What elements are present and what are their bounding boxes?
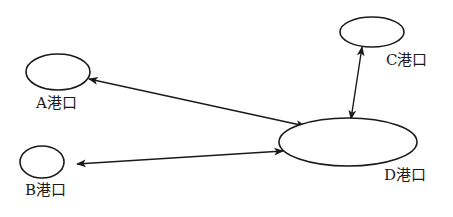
port-a-node bbox=[26, 54, 90, 90]
port-b-label: B港口 bbox=[25, 183, 66, 198]
edge-c-d-bidirectional-arrow bbox=[351, 47, 362, 119]
port-a-label: A港口 bbox=[36, 96, 77, 111]
port-d-node bbox=[279, 118, 417, 166]
port-d-label: D港口 bbox=[384, 168, 426, 183]
port-b-node bbox=[20, 146, 64, 178]
port-c-label: C港口 bbox=[386, 53, 427, 68]
port-c-node bbox=[340, 17, 404, 47]
edge-b-d-bidirectional-arrow bbox=[77, 151, 283, 164]
edge-a-d-bidirectional-arrow bbox=[89, 79, 305, 126]
